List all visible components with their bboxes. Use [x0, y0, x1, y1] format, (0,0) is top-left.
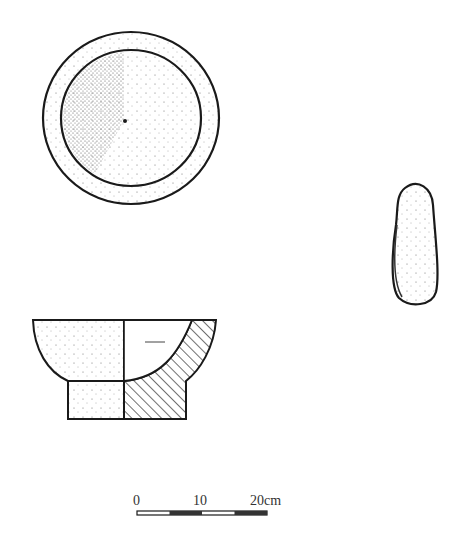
scale-label-10: 10 [193, 494, 207, 508]
mortar-section-view [33, 320, 216, 419]
mortar-top-view [43, 32, 219, 204]
drawing-canvas [0, 0, 464, 560]
scale-label-20cm: 20cm [250, 494, 281, 508]
scale-label-0: 0 [133, 494, 140, 508]
pestle-drawing [393, 184, 438, 304]
scale-bar [137, 511, 267, 515]
